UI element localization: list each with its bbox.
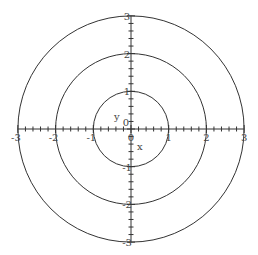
x-tick-label: -3	[11, 132, 21, 143]
y-tick-label: 2	[124, 49, 130, 60]
x-tick-label: 0	[128, 132, 134, 143]
y-axis-label: y	[113, 111, 120, 122]
y-tick-label: 0	[123, 117, 129, 128]
x-tick-label: -1	[86, 132, 96, 143]
y-tick-label: -3	[122, 237, 132, 248]
y-tick-label: -2	[122, 199, 132, 210]
x-tick-label: -2	[49, 132, 59, 143]
y-tick-label: -1	[122, 162, 132, 173]
y-tick-label: 1	[124, 86, 130, 97]
y-tick-label: 3	[124, 11, 130, 22]
x-tick-label: 1	[166, 132, 172, 143]
x-tick-label: 3	[241, 132, 247, 143]
polar-circles-plot: -3-2-10123-3-2-10123 x y	[0, 0, 258, 255]
x-tick-label: 2	[203, 132, 209, 143]
x-axis-label: x	[137, 141, 143, 152]
